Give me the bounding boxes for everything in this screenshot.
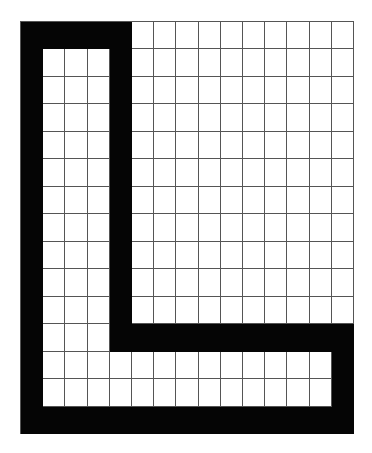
grid-cell-filled (110, 132, 132, 159)
grid-cell-empty (265, 352, 287, 379)
grid-cell-empty (199, 132, 221, 159)
grid-cell-filled (332, 352, 354, 379)
grid-cell-empty (132, 159, 154, 186)
grid-cell-empty (199, 214, 221, 241)
grid-cell-empty (287, 214, 309, 241)
grid-cell-filled (88, 407, 110, 434)
grid-cell-empty (243, 159, 265, 186)
grid-cell-empty (65, 324, 87, 351)
grid-cell-empty (43, 297, 65, 324)
grid-cell-empty (287, 77, 309, 104)
grid-cell-filled (21, 187, 43, 214)
grid-cell-empty (221, 242, 243, 269)
grid-cell-empty (199, 104, 221, 131)
grid-cell-empty (287, 49, 309, 76)
grid-cell-filled (199, 324, 221, 351)
grid-cell-empty (43, 324, 65, 351)
grid-cell-empty (243, 297, 265, 324)
grid-cell-filled (110, 187, 132, 214)
grid-cell-empty (132, 269, 154, 296)
grid-cell-empty (65, 77, 87, 104)
grid-cell-empty (154, 297, 176, 324)
grid-cell-empty (265, 187, 287, 214)
grid-cell-filled (110, 407, 132, 434)
grid-cell-filled (243, 324, 265, 351)
grid-cell-empty (221, 104, 243, 131)
grid-cell-filled (65, 22, 87, 49)
grid-cell-empty (132, 104, 154, 131)
grid-cell-empty (243, 22, 265, 49)
grid-cell-filled (332, 379, 354, 406)
grid-cell-filled (310, 407, 332, 434)
grid-cell-empty (199, 297, 221, 324)
grid-cell-empty (310, 379, 332, 406)
grid-cell-empty (132, 132, 154, 159)
grid-cell-empty (199, 22, 221, 49)
grid-cell-empty (88, 324, 110, 351)
grid-cell-empty (110, 352, 132, 379)
grid-cell-empty (43, 104, 65, 131)
grid-cell-empty (88, 187, 110, 214)
grid-cell-filled (110, 77, 132, 104)
grid-cell-empty (265, 49, 287, 76)
grid-cell-filled (310, 324, 332, 351)
grid-cell-filled (176, 407, 198, 434)
grid-cell-filled (110, 214, 132, 241)
grid-cell-empty (88, 104, 110, 131)
grid-cell-empty (43, 379, 65, 406)
grid-cell-filled (21, 104, 43, 131)
grid-cell-empty (110, 379, 132, 406)
grid-cell-empty (265, 104, 287, 131)
grid-cell-empty (132, 352, 154, 379)
grid-cell-filled (287, 407, 309, 434)
grid-cell-filled (21, 49, 43, 76)
grid-cell-empty (154, 214, 176, 241)
grid-cell-empty (88, 352, 110, 379)
grid-cell-empty (221, 379, 243, 406)
grid-cell-empty (221, 187, 243, 214)
grid-cell-empty (199, 379, 221, 406)
grid-cell-empty (310, 297, 332, 324)
grid-cell-filled (332, 324, 354, 351)
grid-cell-empty (310, 352, 332, 379)
grid-cell-empty (310, 22, 332, 49)
grid-cell-filled (21, 77, 43, 104)
grid-cell-filled (43, 22, 65, 49)
grid-cell-empty (265, 159, 287, 186)
grid-cell-empty (132, 77, 154, 104)
grid-cell-empty (176, 214, 198, 241)
grid-cell-filled (221, 407, 243, 434)
grid-cell-filled (154, 407, 176, 434)
grid-cell-empty (199, 49, 221, 76)
grid-cell-empty (154, 104, 176, 131)
grid-cell-filled (287, 324, 309, 351)
grid-cell-empty (154, 242, 176, 269)
grid-cell-empty (65, 104, 87, 131)
grid-cell-empty (221, 77, 243, 104)
grid-cell-empty (287, 352, 309, 379)
grid-cell-empty (199, 187, 221, 214)
grid-cell-empty (65, 159, 87, 186)
grid-cell-empty (265, 297, 287, 324)
grid-cell-empty (287, 22, 309, 49)
grid-cell-empty (132, 187, 154, 214)
grid-cell-empty (176, 49, 198, 76)
grid-cell-empty (65, 297, 87, 324)
grid-cell-empty (265, 132, 287, 159)
grid-cell-empty (88, 269, 110, 296)
grid-cell-filled (43, 407, 65, 434)
grid-cell-filled (265, 407, 287, 434)
grid-cell-empty (88, 214, 110, 241)
grid-cell-filled (243, 407, 265, 434)
grid-cell-empty (132, 22, 154, 49)
grid-cell-empty (176, 297, 198, 324)
grid-cell-empty (332, 297, 354, 324)
grid-cell-empty (176, 159, 198, 186)
grid-cell-empty (287, 187, 309, 214)
grid-cell-empty (287, 379, 309, 406)
grid-cell-empty (265, 379, 287, 406)
grid-cell-empty (65, 49, 87, 76)
grid-cell-empty (287, 269, 309, 296)
grid-cell-empty (199, 242, 221, 269)
grid-cell-empty (332, 269, 354, 296)
